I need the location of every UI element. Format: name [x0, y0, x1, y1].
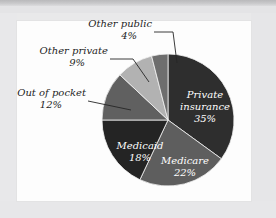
- value-other-private: 9%: [69, 57, 85, 68]
- label-medicaid: Medicaid: [116, 140, 164, 151]
- value-out-of-pocket: 12%: [40, 99, 62, 110]
- label-medicare: Medicare: [160, 155, 209, 166]
- figure-container: Other public 4% Other private 9% Out of …: [0, 0, 276, 218]
- value-medicaid: 18%: [129, 152, 151, 163]
- value-private-insurance: 35%: [194, 113, 216, 124]
- pie-chart: Other public 4% Other private 9% Out of …: [0, 0, 276, 218]
- label-private-insurance-line1: Private: [186, 89, 223, 100]
- label-other-private: Other private: [40, 45, 109, 56]
- label-other-public: Other public: [88, 18, 152, 29]
- value-medicare: 22%: [173, 167, 196, 178]
- value-other-public: 4%: [120, 30, 137, 41]
- label-out-of-pocket: Out of pocket: [17, 87, 87, 98]
- label-private-insurance-line2: insurance: [180, 101, 230, 112]
